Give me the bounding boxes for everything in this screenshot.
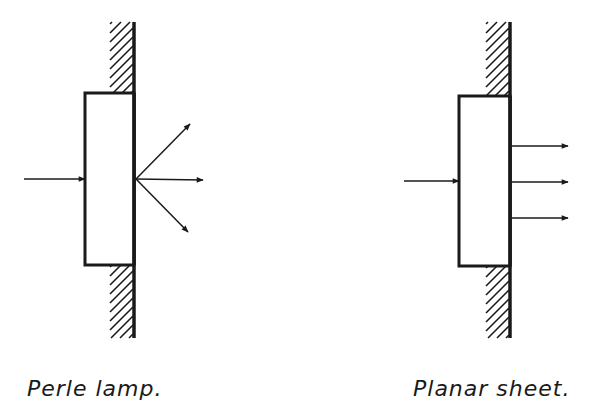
wall-hatching-top	[110, 22, 133, 93]
hatch-line	[110, 22, 121, 33]
hatch-line	[110, 265, 130, 285]
hatch-line	[488, 317, 509, 338]
diagram-canvas	[0, 0, 608, 409]
hatch-line	[110, 22, 130, 42]
perle-lamp-label: Perle lamp.	[27, 376, 162, 401]
perle-lamp-diagram	[24, 22, 203, 338]
wall-hatching-bottom	[110, 265, 133, 338]
outgoing-light-arrow	[136, 124, 190, 179]
planar-sheet-diagram	[404, 22, 568, 338]
outgoing-light-arrow	[136, 179, 203, 180]
planar-sheet-label: Planar sheet.	[413, 376, 570, 401]
hatch-line	[486, 22, 506, 42]
hatch-line	[486, 266, 506, 286]
source-block	[459, 96, 510, 266]
hatch-line	[486, 22, 488, 24]
wall-hatching-top	[486, 22, 509, 96]
hatch-line	[486, 266, 497, 277]
hatch-line	[111, 316, 133, 338]
wall-hatching-bottom	[486, 266, 509, 338]
hatch-line	[122, 82, 133, 93]
outgoing-light-arrow	[136, 179, 188, 232]
source-block	[85, 93, 134, 265]
hatch-line	[113, 73, 133, 93]
hatch-line	[110, 265, 121, 276]
hatch-line	[110, 22, 112, 24]
hatch-line	[486, 22, 497, 33]
